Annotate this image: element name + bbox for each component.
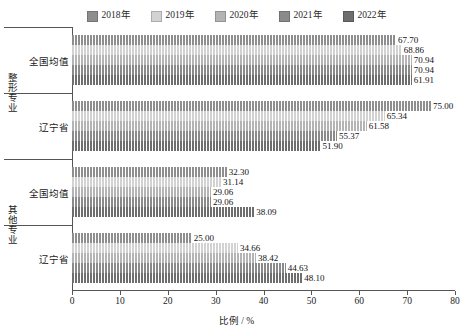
bar-2021年-辽宁省-1 bbox=[72, 131, 337, 141]
bar-2018年-全国均值-0 bbox=[72, 35, 396, 45]
legend-label: 2019年 bbox=[166, 11, 195, 21]
bar-value-label: 38.09 bbox=[254, 207, 276, 217]
bar-value-label: 32.30 bbox=[227, 167, 249, 177]
bar-2022年-全国均值-0 bbox=[72, 75, 412, 85]
legend-label: 2018年 bbox=[102, 11, 131, 21]
x-axis-tick-label: 40 bbox=[259, 296, 269, 306]
bar-value-label: 55.37 bbox=[337, 131, 359, 141]
y-axis-group-label-0: 整形专业 bbox=[5, 27, 19, 159]
legend-item-2022年[interactable]: 2022年 bbox=[343, 11, 387, 22]
bar-2020年-全国均值-2 bbox=[72, 187, 211, 197]
bar-2022年-辽宁省-3 bbox=[72, 273, 302, 283]
x-axis-title: 比例 / % bbox=[0, 313, 473, 327]
bar-value-label: 25.00 bbox=[192, 233, 214, 243]
bar-value-label: 68.86 bbox=[402, 45, 424, 55]
bar-2018年-辽宁省-3 bbox=[72, 233, 192, 243]
legend-item-2021年[interactable]: 2021年 bbox=[279, 11, 323, 22]
bar-2020年-全国均值-0 bbox=[72, 55, 412, 65]
x-axis-tick-label: 70 bbox=[402, 296, 412, 306]
bar-value-label: 51.90 bbox=[320, 141, 342, 151]
x-axis-tick-label: 0 bbox=[70, 296, 75, 306]
x-axis-tick bbox=[311, 291, 312, 295]
bar-2022年-辽宁省-1 bbox=[72, 141, 320, 151]
y-axis-group-label-1: 其他专业 bbox=[5, 159, 19, 291]
y-axis-category-label: 辽宁省 bbox=[39, 120, 69, 134]
x-axis-tick-label: 50 bbox=[307, 296, 317, 306]
legend-swatch-icon bbox=[151, 11, 162, 22]
bar-value-label: 29.06 bbox=[211, 197, 233, 207]
legend-label: 2021年 bbox=[294, 11, 323, 21]
legend-item-2020年[interactable]: 2020年 bbox=[215, 11, 259, 22]
bar-value-label: 61.58 bbox=[367, 121, 389, 131]
y-axis-category-label: 全国均值 bbox=[29, 54, 69, 68]
bar-value-label: 67.70 bbox=[396, 35, 418, 45]
legend-swatch-icon bbox=[279, 11, 290, 22]
x-axis-tick-label: 60 bbox=[355, 296, 365, 306]
legend-label: 2020年 bbox=[230, 11, 259, 21]
bar-value-label: 38.42 bbox=[256, 253, 278, 263]
x-axis-tick-label: 20 bbox=[163, 296, 173, 306]
chart-legend: 2018年2019年2020年2021年2022年 bbox=[0, 7, 473, 25]
bar-value-label: 44.63 bbox=[286, 263, 308, 273]
x-axis-tick-label: 30 bbox=[211, 296, 221, 306]
bar-value-label: 34.66 bbox=[238, 243, 260, 253]
legend-label: 2022年 bbox=[358, 11, 387, 21]
bar-2020年-辽宁省-3 bbox=[72, 253, 256, 263]
bar-2018年-全国均值-2 bbox=[72, 167, 227, 177]
bar-2021年-辽宁省-3 bbox=[72, 263, 286, 273]
x-axis-tick bbox=[407, 291, 408, 295]
x-axis: 01020304050607080 bbox=[72, 291, 455, 313]
bar-value-label: 65.34 bbox=[385, 111, 407, 121]
bar-value-label: 61.91 bbox=[412, 75, 434, 85]
x-axis-tick bbox=[455, 291, 456, 295]
bar-2019年-辽宁省-1 bbox=[72, 111, 385, 121]
bar-value-label: 70.94 bbox=[412, 65, 434, 75]
bar-2018年-辽宁省-1 bbox=[72, 101, 431, 111]
bar-2019年-全国均值-0 bbox=[72, 45, 402, 55]
y-axis-category-label: 全国均值 bbox=[29, 186, 69, 200]
legend-swatch-icon bbox=[215, 11, 226, 22]
legend-swatch-icon bbox=[87, 11, 98, 22]
bar-value-label: 29.06 bbox=[211, 187, 233, 197]
bar-value-label: 48.10 bbox=[302, 273, 324, 283]
legend-swatch-icon bbox=[343, 11, 354, 22]
bar-2021年-全国均值-0 bbox=[72, 65, 412, 75]
bar-chart: 2018年2019年2020年2021年2022年 全国均值辽宁省全国均值辽宁省… bbox=[0, 0, 473, 332]
x-axis-tick-label: 80 bbox=[450, 296, 460, 306]
x-axis-tick-label: 10 bbox=[115, 296, 125, 306]
bar-value-label: 70.94 bbox=[412, 55, 434, 65]
bar-2021年-全国均值-2 bbox=[72, 197, 211, 207]
bar-value-label: 75.00 bbox=[431, 101, 453, 111]
bar-2020年-辽宁省-1 bbox=[72, 121, 367, 131]
x-axis-tick bbox=[264, 291, 265, 295]
x-axis-tick bbox=[216, 291, 217, 295]
bar-2019年-辽宁省-3 bbox=[72, 243, 238, 253]
y-axis-category-label: 辽宁省 bbox=[39, 252, 69, 266]
bar-value-label: 31.14 bbox=[221, 177, 243, 187]
x-axis-tick bbox=[168, 291, 169, 295]
legend-item-2019年[interactable]: 2019年 bbox=[151, 11, 195, 22]
bar-2022年-全国均值-2 bbox=[72, 207, 254, 217]
bars-layer: 67.7068.8670.9470.9461.9175.0065.3461.58… bbox=[72, 27, 455, 291]
bar-2019年-全国均值-2 bbox=[72, 177, 221, 187]
legend-item-2018年[interactable]: 2018年 bbox=[87, 11, 131, 22]
x-axis-tick bbox=[120, 291, 121, 295]
x-axis-tick bbox=[72, 291, 73, 295]
x-axis-tick bbox=[359, 291, 360, 295]
